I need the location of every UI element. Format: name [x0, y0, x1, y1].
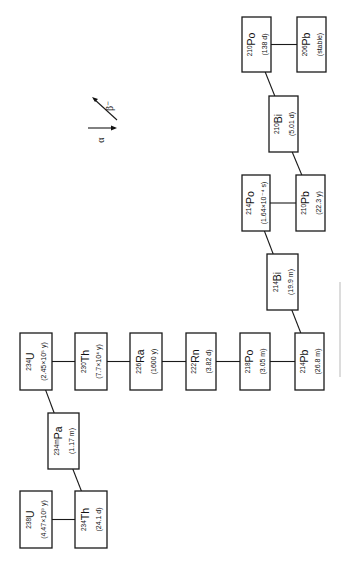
- half-life-label: (3.05 m): [259, 348, 267, 374]
- half-life-label: (24.1 d): [95, 507, 103, 531]
- nuclide-box-po210: 210Po(138 d): [242, 17, 271, 72]
- element-symbol: Po: [244, 191, 256, 204]
- element-symbol: Pb: [299, 191, 311, 204]
- legend-beta-label: β⁻: [104, 101, 115, 111]
- half-life-label: (3.82 d): [205, 349, 213, 373]
- mass-number: 222: [190, 362, 197, 373]
- nuclide-boxes: 238U(4.47×10⁹ y)234Th(24.1 d)234mPa(1.17…: [20, 17, 326, 548]
- alpha-arrowhead-icon: [111, 126, 117, 131]
- nuclide-box-th234: 234Th(24.1 d): [75, 491, 107, 548]
- element-symbol: Bi: [272, 114, 284, 123]
- half-life-label: (1600 y): [150, 349, 158, 375]
- mass-number: 214: [299, 362, 306, 373]
- element-symbol: Pb: [298, 349, 310, 362]
- half-life-label: (22.3 y): [315, 191, 323, 215]
- nuclide-box-ra226: 226Ra(1600 y): [130, 333, 162, 390]
- decay-link-beta: [292, 310, 301, 333]
- decay-chain-diagram: α β⁻ 238U(4.47×10⁹ y)234Th(24.1 d)234mPa…: [0, 0, 346, 566]
- decay-link-beta: [265, 72, 275, 96]
- mass-number: 230: [80, 362, 87, 373]
- nuclide-box-po218: 218Po(3.05 m): [240, 333, 270, 390]
- element-symbol: Th: [79, 350, 91, 362]
- legend-alpha-label: α: [95, 137, 106, 143]
- half-life-label: (4.47×10⁹ y): [40, 500, 48, 539]
- element-symbol: Bi: [271, 272, 283, 281]
- nuclide-box-bi210: 210Bi(5.01 d): [269, 96, 298, 152]
- half-life-label: (138 d): [261, 33, 269, 55]
- element-symbol: Pb: [300, 32, 312, 45]
- element-symbol: Po: [245, 32, 257, 45]
- mass-number: 206: [301, 45, 308, 56]
- decay-link-beta: [292, 152, 302, 175]
- nuclide-box-u238: 238U(4.47×10⁹ y): [20, 491, 52, 548]
- nuclide-box-pb214: 214Pb(26.8 m): [295, 333, 324, 390]
- mass-number: 226: [135, 362, 142, 373]
- nuclide-box-pb206: 206Pb(stable): [297, 17, 326, 72]
- element-symbol: Po: [243, 349, 255, 362]
- nuclide-box-th230: 230Th(7.7×10⁴ y): [75, 333, 107, 390]
- decay-link-beta: [73, 469, 82, 491]
- mass-number: 210: [273, 123, 280, 134]
- mass-number: 218: [244, 362, 251, 373]
- element-symbol: Ra: [134, 349, 146, 363]
- half-life-label: (26.8 m): [314, 348, 322, 374]
- nuclide-box-u234: 234U(2.45×10⁵ y): [20, 333, 52, 390]
- half-life-label: (19.9 m): [287, 269, 295, 295]
- nuclide-box-bi214: 214Bi(19.9 m): [267, 254, 298, 310]
- element-symbol: Rn: [189, 349, 201, 363]
- nuclide-box-pb210: 210Pb(22.3 y): [296, 175, 325, 231]
- element-symbol: U: [24, 352, 36, 360]
- decay-link-beta: [46, 390, 55, 413]
- mass-number: 210: [300, 204, 307, 215]
- decay-link-beta: [264, 231, 273, 254]
- nuclide-box-pa234m: 234mPa(1.17 m): [48, 413, 79, 469]
- element-symbol: Pa: [52, 426, 64, 439]
- half-life-label: (2.45×10⁵ y): [40, 342, 48, 381]
- mass-number: 234m: [53, 439, 60, 455]
- decay-links: [46, 45, 302, 520]
- half-life-label: (5.01 d): [288, 112, 296, 136]
- half-life-label: (7.7×10⁴ y): [95, 344, 103, 379]
- nuclide-box-rn222: 222Rn(3.82 d): [186, 333, 216, 390]
- scan-artifact: [339, 282, 341, 377]
- legend: α β⁻: [88, 97, 117, 143]
- mass-number: 214: [245, 204, 252, 215]
- element-symbol: U: [24, 510, 36, 518]
- mass-number: 214: [272, 281, 279, 292]
- mass-number: 210: [246, 45, 253, 56]
- nuclide-box-po214: 214Po(1.64×10⁻⁴ s): [242, 175, 270, 231]
- half-life-label: (1.17 m): [68, 428, 76, 454]
- half-life-label: (stable): [316, 33, 324, 56]
- mass-number: 234: [80, 520, 87, 531]
- element-symbol: Th: [79, 508, 91, 520]
- half-life-label: (1.64×10⁻⁴ s): [260, 182, 268, 225]
- mass-number: 238: [25, 517, 32, 528]
- mass-number: 234: [25, 359, 32, 370]
